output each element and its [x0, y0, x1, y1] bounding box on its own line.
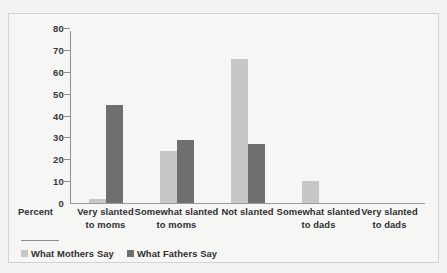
y-axis-tick-label: 10	[53, 176, 64, 187]
bar	[248, 144, 265, 203]
bar	[160, 151, 177, 204]
y-axis-tick-label: 60	[53, 66, 64, 77]
x-axis-label-line: to dads	[346, 219, 433, 232]
bar	[106, 105, 123, 203]
bar-group	[212, 28, 283, 203]
bar-group	[141, 28, 212, 203]
legend-item: What Mothers Say	[21, 248, 114, 259]
x-axis-labels: Very slantedto momsSomewhat slantedto mo…	[70, 206, 425, 246]
y-axis-title: Percent	[18, 206, 53, 217]
legend-swatch	[127, 250, 134, 257]
x-axis-line	[70, 203, 425, 204]
bar	[231, 59, 248, 203]
plot-area	[70, 28, 425, 203]
y-axis-labels: 01020304050607080	[26, 0, 64, 273]
legend-swatch	[21, 250, 28, 257]
y-axis-tick-label: 80	[53, 23, 64, 34]
legend-label: What Fathers Say	[137, 248, 217, 259]
legend-label: What Mothers Say	[31, 248, 114, 259]
y-axis-tick-label: 50	[53, 88, 64, 99]
legend-item: What Fathers Say	[127, 248, 217, 259]
bar-group	[70, 28, 141, 203]
legend-divider	[21, 240, 59, 241]
x-axis-label-line: to moms	[133, 219, 220, 232]
y-axis-tick-label: 40	[53, 110, 64, 121]
x-axis-label-line: Very slanted	[346, 206, 433, 219]
y-axis-tick-label: 30	[53, 132, 64, 143]
bar-group	[354, 28, 425, 203]
chart-figure: 01020304050607080 Very slantedto momsSom…	[0, 0, 447, 273]
x-axis-tick-label: Very slantedto dads	[346, 206, 433, 231]
y-axis-tick-label: 20	[53, 154, 64, 165]
bar	[89, 199, 106, 203]
bar	[302, 181, 319, 203]
bar-group	[283, 28, 354, 203]
chart-legend: What Mothers SayWhat Fathers Say	[21, 248, 217, 259]
y-axis-tick-label: 70	[53, 44, 64, 55]
bar	[177, 140, 194, 203]
